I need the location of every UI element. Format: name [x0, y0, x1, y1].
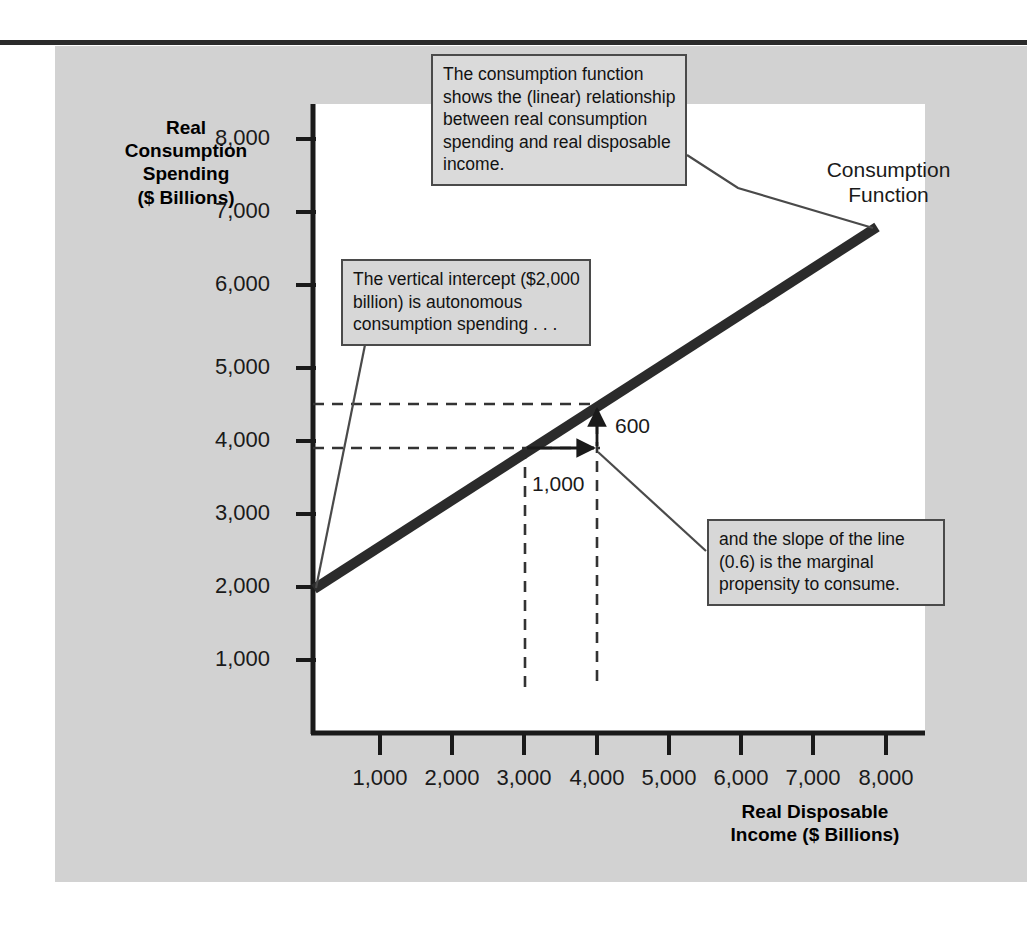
rise-value-label: 600 — [615, 414, 650, 438]
x-tick-label: 1,000 — [344, 765, 416, 791]
y-tick-label: 7,000 — [196, 198, 270, 224]
y-tick-label: 3,000 — [196, 500, 270, 526]
x-tick-label: 6,000 — [705, 765, 777, 791]
run-value-label: 1,000 — [532, 472, 585, 496]
x-tick-label: 3,000 — [488, 765, 560, 791]
x-tick-label: 8,000 — [850, 765, 922, 791]
x-axis-title: Real Disposable Income ($ Billions) — [690, 800, 940, 846]
y-tick-label: 5,000 — [196, 354, 270, 380]
x-tick-marks — [380, 733, 886, 755]
consumption-function-label: Consumption Function — [806, 157, 971, 207]
x-tick-label: 2,000 — [416, 765, 488, 791]
y-tick-label: 6,000 — [196, 271, 270, 297]
figure-root: Real Consumption Spending ($ Billions) R… — [0, 0, 1027, 928]
leader-slope — [598, 452, 706, 551]
y-tick-label: 8,000 — [196, 125, 270, 151]
x-tick-label: 7,000 — [777, 765, 849, 791]
x-tick-label: 4,000 — [561, 765, 633, 791]
callout-consumption-function: The consumption function shows the (line… — [431, 54, 687, 186]
callout-vertical-intercept: The vertical intercept ($2,000 billion) … — [341, 259, 591, 346]
y-tick-label: 1,000 — [196, 646, 270, 672]
y-tick-label: 4,000 — [196, 427, 270, 453]
y-tick-label: 2,000 — [196, 573, 270, 599]
leader-intercept — [316, 330, 368, 588]
x-tick-label: 5,000 — [633, 765, 705, 791]
callout-slope-mpc: and the slope of the line (0.6) is the m… — [707, 519, 945, 606]
